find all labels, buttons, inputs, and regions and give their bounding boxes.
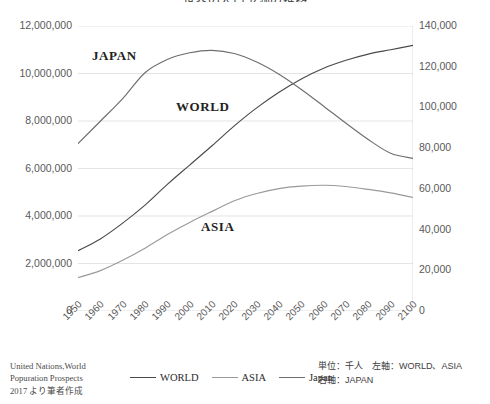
axis-tick-label: 40,000 <box>419 224 451 235</box>
source-note: United Nations,World Popuration Prospect… <box>10 360 130 397</box>
axis-tick-label: 20,000 <box>419 264 451 275</box>
source-note-line-1: United Nations,World <box>10 360 130 372</box>
legend-swatch <box>212 377 238 378</box>
legend-item[interactable]: ASIA <box>212 372 267 383</box>
axis-tick-label: 8,000,000 <box>25 115 72 126</box>
axis-tick-label: 60,000 <box>419 183 451 194</box>
axis-tick-label: 6,000,000 <box>25 163 72 174</box>
unit-note-line-1: 単位：千人 左軸：WORLD、ASIA <box>318 360 486 374</box>
annotation-japan: JAPAN <box>92 48 137 64</box>
plot-area <box>78 26 413 311</box>
axis-tick-label: 12,000,000 <box>19 20 72 31</box>
annotation-asia: ASIA <box>201 219 234 235</box>
chart-legend: WORLDASIAJapan <box>130 372 333 383</box>
legend-swatch <box>279 377 305 378</box>
legend-label: WORLD <box>160 372 199 383</box>
axis-tick-label: 2,000,000 <box>25 258 72 269</box>
population-projection-chart: 世界の人口予測の推移 02,000,0004,000,0006,000,0008… <box>0 0 490 404</box>
plot-svg <box>78 26 413 311</box>
axis-tick-label: 0 <box>419 305 425 316</box>
gridlines <box>78 26 413 311</box>
legend-item[interactable]: WORLD <box>130 372 199 383</box>
right-axis-tick-labels: 020,00040,00060,00080,000100,000120,0001… <box>419 26 489 311</box>
source-note-line-3: 2017 より筆者作成 <box>10 385 130 397</box>
axis-tick-label: 100,000 <box>419 101 457 112</box>
series-line-world <box>78 45 413 250</box>
x-axis-tick-labels: 1950196019701980199020002010202020302040… <box>78 311 413 363</box>
legend-label: ASIA <box>242 372 267 383</box>
series-lines <box>78 45 413 277</box>
axis-tick-label: 10,000,000 <box>19 68 72 79</box>
axis-tick-label: 80,000 <box>419 142 451 153</box>
unit-note-line-2: 右軸：JAPAN <box>318 374 486 388</box>
left-axis-tick-labels: 02,000,0004,000,0006,000,0008,000,00010,… <box>0 26 72 311</box>
source-note-line-2: Popuration Prospects <box>10 372 130 384</box>
legend-swatch <box>130 377 156 378</box>
unit-note: 単位：千人 左軸：WORLD、ASIA 右軸：JAPAN <box>318 360 486 388</box>
axis-tick-label: 4,000,000 <box>25 210 72 221</box>
annotation-world: WORLD <box>176 99 230 115</box>
axis-tick-label: 120,000 <box>419 61 457 72</box>
series-line-japan <box>78 50 413 158</box>
axis-tick-label: 140,000 <box>419 20 457 31</box>
chart-title: 世界の人口予測の推移 <box>0 0 490 2</box>
